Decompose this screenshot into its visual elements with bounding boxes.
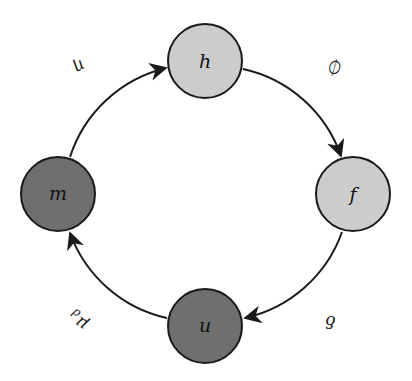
edge-label-delta: δ bbox=[325, 312, 335, 332]
node-u: u bbox=[168, 289, 242, 363]
edge-h-to-f bbox=[243, 69, 341, 156]
cycle-diagram: h f u m η ∅ δ μ d bbox=[0, 0, 412, 381]
node-m: m bbox=[21, 157, 95, 231]
node-h-label: h bbox=[199, 50, 211, 72]
edge-label-empty-set: ∅ bbox=[322, 55, 346, 80]
edge-label-eta: η bbox=[70, 56, 90, 79]
edge-f-to-u bbox=[245, 232, 342, 318]
node-f: f bbox=[316, 157, 390, 231]
edge-u-to-m bbox=[70, 233, 167, 318]
edge-label-mu-d: μ d bbox=[63, 305, 93, 336]
node-u-label: u bbox=[199, 314, 211, 336]
node-m-label: m bbox=[49, 182, 67, 204]
edge-m-to-h bbox=[70, 68, 166, 157]
node-h: h bbox=[168, 24, 242, 98]
